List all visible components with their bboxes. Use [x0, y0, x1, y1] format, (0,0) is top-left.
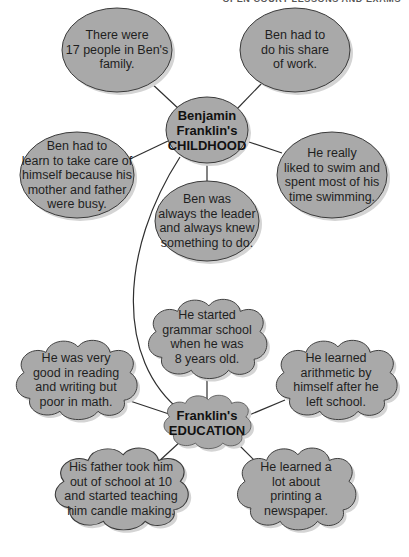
- text-line: He learned a: [260, 460, 332, 475]
- text-line: of work.: [261, 57, 329, 72]
- text-line: arithmetic by: [293, 366, 378, 381]
- text-line: learn to take care of: [22, 153, 132, 168]
- text-line: always the leader: [158, 207, 255, 222]
- education-node-grammar-text: He started grammar school when he was 8 …: [162, 308, 252, 366]
- text-line: and started teaching: [64, 489, 177, 504]
- text-line: There were: [66, 28, 168, 43]
- concept-map: [0, 0, 409, 557]
- text-line: He started: [162, 308, 252, 323]
- text-line: EDUCATION: [169, 423, 245, 438]
- text-line: Ben was: [158, 192, 255, 207]
- text-line: spent most of his: [284, 175, 380, 190]
- text-line: left school.: [293, 395, 378, 410]
- text-line: family.: [66, 57, 168, 72]
- text-line: something to do.: [158, 236, 255, 251]
- text-line: time swimming.: [284, 190, 380, 205]
- text-line: Franklin's: [169, 408, 245, 423]
- childhood-node-work-text: Ben had to do his share of work.: [261, 28, 329, 72]
- text-line: out of school at 10: [64, 475, 177, 490]
- text-line: poor in math.: [33, 395, 119, 410]
- education-node-candle-text: His father took him out of school at 10 …: [64, 460, 177, 518]
- childhood-node-selfcare-text: Ben had to learn to take care of himself…: [22, 139, 132, 212]
- text-line: and always knew: [158, 221, 255, 236]
- text-line: were busy.: [22, 197, 132, 212]
- text-line: His father took him: [64, 460, 177, 475]
- text-line: liked to swim and: [284, 161, 380, 176]
- text-line: good in reading: [33, 366, 119, 381]
- text-line: printing a: [260, 489, 332, 504]
- text-line: himself after he: [293, 380, 378, 395]
- text-line: mother and father: [22, 182, 132, 197]
- childhood-node-swim-text: He really liked to swim and spent most o…: [284, 146, 380, 204]
- text-line: Ben had to: [261, 28, 329, 43]
- education-node-arithmetic-text: He learned arithmetic by himself after h…: [293, 351, 378, 409]
- childhood-hub-text: Benjamin Franklin's CHILDHOOD: [168, 108, 247, 153]
- text-line: Franklin's: [168, 123, 247, 138]
- text-line: Ben had to: [22, 139, 132, 154]
- text-line: CHILDHOOD: [168, 138, 247, 153]
- text-line: He was very: [33, 351, 119, 366]
- childhood-node-leader-text: Ben was always the leader and always kne…: [158, 192, 255, 250]
- text-line: newspaper.: [260, 504, 332, 519]
- text-line: and writing but: [33, 380, 119, 395]
- childhood-node-family-text: There were 17 people in Ben's family.: [66, 28, 168, 72]
- education-hub-text: Franklin's EDUCATION: [169, 408, 245, 438]
- text-line: He learned: [293, 351, 378, 366]
- text-line: himself because his: [22, 168, 132, 183]
- text-line: 8 years old.: [162, 352, 252, 367]
- text-line: lot about: [260, 475, 332, 490]
- text-line: him candle making.: [64, 504, 177, 519]
- text-line: He really: [284, 146, 380, 161]
- text-line: Benjamin: [168, 108, 247, 123]
- education-node-printing-text: He learned a lot about printing a newspa…: [260, 460, 332, 518]
- text-line: when he was: [162, 337, 252, 352]
- education-node-reading-text: He was very good in reading and writing …: [33, 351, 119, 409]
- text-line: do his share: [261, 43, 329, 58]
- text-line: grammar school: [162, 323, 252, 338]
- text-line: 17 people in Ben's: [66, 43, 168, 58]
